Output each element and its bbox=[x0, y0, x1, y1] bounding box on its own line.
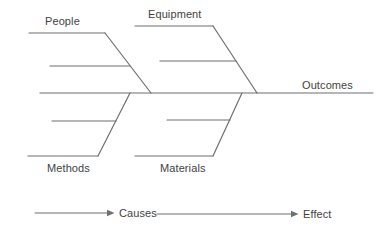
diagram-labels: People Equipment Outcomes Methods Materi… bbox=[45, 8, 353, 220]
people-branch-diagonal-line bbox=[105, 33, 151, 93]
fishbone-diagram: People Equipment Outcomes Methods Materi… bbox=[0, 0, 378, 233]
methods-branch-diagonal-line bbox=[98, 93, 130, 156]
equipment-branch-label: Equipment bbox=[148, 8, 202, 20]
materials-branch-diagonal-line bbox=[213, 93, 242, 156]
methods-branch-label: Methods bbox=[47, 162, 90, 174]
effect-legend-label: Effect bbox=[303, 208, 332, 220]
causes-legend-label: Causes bbox=[119, 207, 157, 219]
effect-arrowhead-icon bbox=[291, 211, 299, 217]
equipment-branch-diagonal-line bbox=[213, 26, 257, 93]
diagram-lines bbox=[28, 26, 373, 214]
materials-branch-label: Materials bbox=[160, 162, 206, 174]
people-branch-label: People bbox=[45, 15, 80, 27]
outcomes-spine-label: Outcomes bbox=[302, 79, 353, 91]
fishbone-svg: People Equipment Outcomes Methods Materi… bbox=[0, 0, 378, 233]
causes-arrowhead-icon bbox=[107, 210, 115, 216]
